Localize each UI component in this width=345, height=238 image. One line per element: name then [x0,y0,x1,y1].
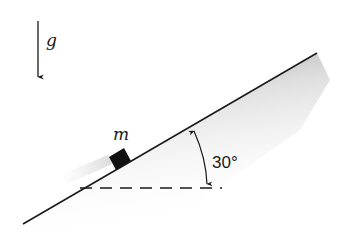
gravity-indicator: g [38,21,57,77]
inclined-plane-diagram: g m 30° [0,0,345,238]
incline-shading [23,53,330,238]
mass-label: m [113,124,129,144]
angle-label: 30° [212,153,238,172]
gravity-label: g [46,30,57,50]
